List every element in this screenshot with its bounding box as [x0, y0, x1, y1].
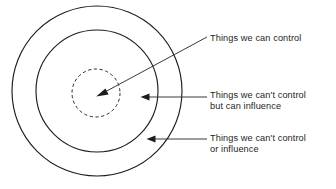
label-neither-line-2: or influence — [210, 144, 306, 155]
callout-control-arrowhead — [96, 89, 108, 97]
label-things-we-can-control: Things we can control — [210, 33, 301, 44]
label-things-we-cant-control-but-can-influence: Things we can't control but can influenc… — [210, 90, 306, 112]
label-things-we-cant-control-or-influence: Things we can't control or influence — [210, 133, 306, 155]
callout-control-line — [103, 37, 207, 93]
callout-control-leader — [96, 37, 207, 97]
label-influence-line-1: Things we can't control — [210, 90, 306, 101]
label-control-line-1: Things we can control — [210, 33, 301, 44]
callout-influence-leader — [141, 94, 208, 101]
callout-influence-arrowhead — [141, 94, 150, 101]
inner-dashed-ring-circle — [72, 69, 120, 117]
outer-ring-circle — [12, 6, 182, 176]
label-influence-line-2: but can influence — [210, 101, 306, 112]
circles-of-control-diagram: Things we can control Things we can't co… — [0, 0, 336, 189]
middle-ring-circle — [36, 30, 158, 152]
callout-neither-leader — [147, 136, 208, 143]
callout-neither-arrowhead — [147, 136, 156, 143]
label-neither-line-1: Things we can't control — [210, 133, 306, 144]
